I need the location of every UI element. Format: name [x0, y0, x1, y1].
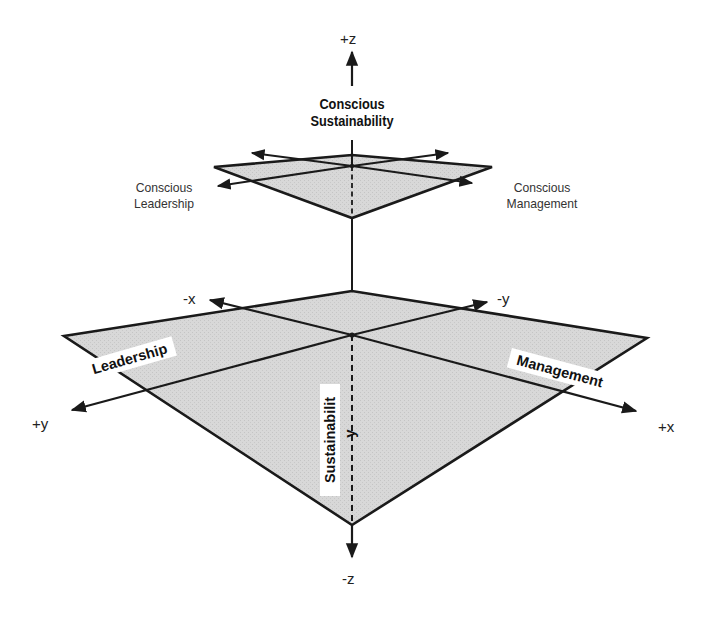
- plus-x-label: +x: [658, 418, 674, 435]
- conscious-leadership-line-2: Leadership: [123, 196, 206, 212]
- title-line-2: Sustainability: [297, 113, 406, 130]
- conscious-management-line-1: Conscious: [495, 180, 589, 196]
- minus-z-label: -z: [342, 570, 355, 587]
- title-line-1: Conscious: [297, 96, 406, 113]
- sustainability-tag-suffix: y: [341, 429, 358, 437]
- plus-z-label: +z: [340, 30, 356, 47]
- minus-y-label: -y: [497, 290, 510, 307]
- plus-y-label: +y: [32, 415, 48, 432]
- conscious-management-line-2: Management: [495, 196, 589, 212]
- conscious-leadership-label: Conscious Leadership: [123, 180, 206, 211]
- conscious-leadership-line-1: Conscious: [123, 180, 206, 196]
- upper-plane-origin: [350, 164, 354, 168]
- conscious-management-label: Conscious Management: [495, 180, 589, 211]
- lower-plane: [64, 291, 647, 525]
- three-dimensional-conscious-sustainability-diagram: +z -z -x +x -y +y Conscious Sustainabili…: [0, 0, 707, 618]
- diagram-canvas: [0, 0, 707, 618]
- lower-plane-origin: [349, 332, 354, 337]
- minus-x-label: -x: [183, 290, 196, 307]
- conscious-sustainability-title: Conscious Sustainability: [297, 96, 406, 129]
- sustainability-tag: Sustainabilit: [320, 384, 340, 496]
